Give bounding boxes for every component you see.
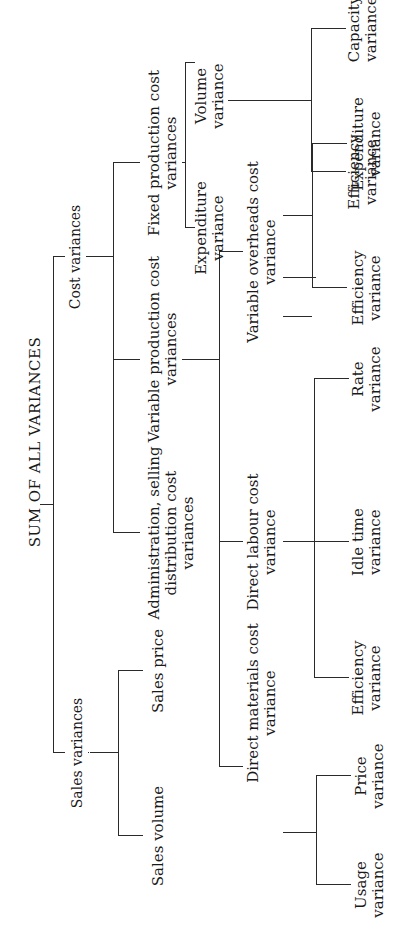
- label-line: variance: [363, 0, 380, 62]
- label-line: Efficiency: [350, 640, 367, 715]
- node-cost-variances: Cost variances: [66, 205, 84, 310]
- label-line: Rate: [350, 346, 367, 411]
- node-overheads-efficiency-variance: Efficiency variance: [350, 250, 384, 325]
- node-usage-variance: Usage variance: [353, 852, 387, 917]
- connector: [283, 316, 312, 317]
- variance-tree-diagram: SUM OF ALL VARIANCES Sales variances Sal…: [0, 0, 408, 939]
- node-direct-materials-cost: Direct materials cost variance: [245, 623, 279, 782]
- connector: [53, 752, 65, 753]
- label-line: distribution cost: [163, 446, 180, 619]
- connector: [314, 541, 349, 542]
- label-line: Fixed production cost: [146, 70, 163, 236]
- label-line: Expenditure: [193, 181, 210, 275]
- connector: [311, 171, 346, 172]
- connector: [312, 287, 347, 288]
- connector: [113, 162, 114, 533]
- connector: [283, 832, 316, 833]
- node-sales-price: Sales price: [150, 629, 167, 713]
- node-admin-selling-distribution: Administration, selling distribution cos…: [146, 446, 197, 619]
- connector: [283, 215, 312, 216]
- node-variable-overheads-cost: Variable overheads cost variance: [245, 161, 279, 343]
- connector: [113, 162, 140, 163]
- connector: [316, 884, 351, 885]
- node-price-variance: Price variance: [353, 743, 387, 808]
- connector: [316, 775, 317, 885]
- node-idle-time-variance: Idle time variance: [350, 508, 384, 576]
- connector: [283, 541, 314, 542]
- connector: [40, 504, 53, 505]
- label-line: variances: [180, 446, 197, 619]
- node-variable-production-cost: Variable production cost variances: [146, 256, 180, 442]
- label-line: variance: [367, 640, 384, 715]
- node-sum-of-all-variances: SUM OF ALL VARIANCES: [27, 337, 44, 548]
- label-line: Direct materials cost: [245, 623, 262, 782]
- label-line: variances: [163, 70, 180, 236]
- label-line: variance: [210, 63, 227, 128]
- label-line: variance: [367, 346, 384, 411]
- connector: [316, 775, 351, 776]
- label-line: Price: [353, 743, 370, 808]
- label-line: Variable production cost: [146, 256, 163, 442]
- connector: [312, 143, 313, 288]
- connector: [311, 28, 346, 29]
- label-line: variance: [367, 97, 384, 191]
- node-sales-variances: Sales variances: [68, 698, 86, 808]
- label-line: variance: [370, 743, 387, 808]
- connector: [53, 256, 65, 257]
- connector: [219, 541, 243, 542]
- node-fixed-expenditure-variance: Expenditure variance: [193, 181, 227, 275]
- node-volume-variance: Volume variance: [193, 63, 227, 128]
- connector: [182, 359, 219, 360]
- label-line: variances: [163, 256, 180, 442]
- node-capacity-variance: Capacity variance: [346, 0, 380, 62]
- label-line: Volume: [193, 63, 210, 128]
- connector: [118, 835, 143, 836]
- label-line: Administration, selling: [146, 446, 163, 619]
- label-line: variance: [262, 623, 279, 782]
- node-direct-labour-cost: Direct labour cost variance: [245, 473, 279, 610]
- label-line: Idle time: [350, 508, 367, 576]
- label-line: Variable overheads cost: [245, 161, 262, 343]
- label-line: Direct labour cost: [245, 473, 262, 610]
- node-sales-volume: Sales volume: [150, 786, 167, 886]
- connector: [53, 256, 54, 753]
- label-line: variance: [210, 181, 227, 275]
- connector: [118, 670, 143, 671]
- connector: [90, 752, 118, 753]
- node-labour-efficiency-variance: Efficiency variance: [350, 640, 384, 715]
- connector: [219, 251, 220, 767]
- node-rate-variance: Rate variance: [350, 346, 384, 411]
- connector: [312, 143, 347, 144]
- connector: [219, 766, 243, 767]
- connector: [113, 359, 140, 360]
- node-fixed-production-cost: Fixed production cost variances: [146, 70, 180, 236]
- connector: [86, 256, 113, 257]
- label-line: variance: [367, 508, 384, 576]
- connector: [185, 62, 186, 228]
- label-line: Usage: [353, 852, 370, 917]
- connector: [228, 100, 311, 101]
- connector: [113, 532, 140, 533]
- node-overheads-expenditure-variance: Expenditure variance: [350, 97, 384, 191]
- connector: [118, 670, 119, 836]
- label-line: Efficiency: [350, 250, 367, 325]
- connector: [314, 677, 349, 678]
- label-line: variance: [370, 852, 387, 917]
- connector: [314, 378, 349, 379]
- label-line: Expenditure: [350, 97, 367, 191]
- label-line: variance: [367, 250, 384, 325]
- label-line: Capacity: [346, 0, 363, 62]
- label-line: variance: [262, 161, 279, 343]
- label-line: variance: [262, 473, 279, 610]
- connector: [314, 378, 315, 678]
